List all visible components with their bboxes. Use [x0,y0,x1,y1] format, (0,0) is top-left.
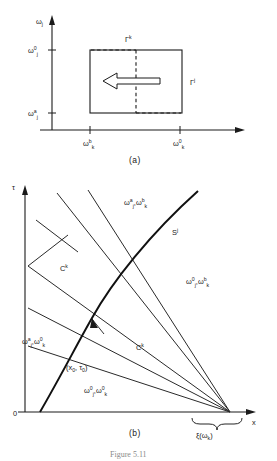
panel-b-shock-label: Sj [172,227,178,237]
panel-b-point-label: (x0, τ0) [66,363,87,373]
panel-a-xtick-label-b: ωbk [83,138,95,150]
panel-b-origin-label: 0 [13,409,17,418]
panel-b-y-axis [22,185,28,412]
panel-b-caption: (b) [129,428,141,438]
panel-b-x-axis-label: x [252,418,256,427]
panel-a-caption: (a) [129,155,141,165]
panel-b-region-right-label: ω0j,ωbk [186,276,210,288]
panel-b-region-lower-label: ω0j,ω0k [84,385,108,397]
panel-a-ytick-label-a: ωaj [28,108,38,120]
panel-a-y-axis-label: ωj [36,17,43,27]
panel-b-shock-curve [40,191,198,412]
panel-a-gamma-k-label: Γk [125,34,132,44]
panel-b-ck-lower-label: Ck [136,342,144,352]
figure-root: ωj ω0j ωaj ωbk ω0k Γk Γj (a) [0,0,277,461]
panel-b-y-axis-label: τ [12,183,15,192]
panel-b-brace-label: ξ(ωk) [196,431,213,441]
figure-number: Figure 5.11 [110,450,147,459]
panel-b-ck-upper-label: Ck [60,263,68,273]
panel-a-xtick-label-0: ω0k [173,138,185,150]
panel-a-ytick-label-0: ω0j [28,45,38,57]
panel-a-gamma-j-label: Γj [190,77,195,87]
panel-b-x-axis [18,409,256,415]
panel-b-plot: ωaj,ωbk ω0j,ωbk ωaj,ω0k ω0j,ω0k Sj Ck Ck… [0,178,277,443]
panel-a-left-arrow [103,73,160,89]
panel-b-brace [192,418,242,430]
panel-a-plot: ωj ω0j ωaj ωbk ω0k Γk Γj [0,0,277,170]
panel-b-region-upper-label: ωaj,ωbk [124,197,148,209]
panel-b-point-marker [90,318,104,334]
panel-a-x-axis [40,127,245,133]
